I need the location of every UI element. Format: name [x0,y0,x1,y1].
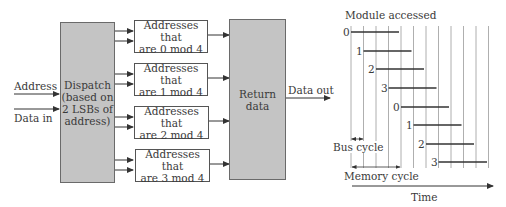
return-data-block: Return data [229,19,286,180]
data-in-label: Data in [14,112,53,124]
input-arrows [14,94,59,109]
dispatch-to-module-arrows [114,31,133,170]
memory-module-3: Addresses that are 3 mod 4 [135,149,210,182]
access-label-1: 1 [356,45,363,57]
return-line-1: Return [239,88,276,100]
access-label-6: 2 [418,138,425,150]
return-line-2: data [246,100,269,112]
memory-cycle-label: Memory cycle [344,170,419,182]
memory-module-0: Addresses that are 0 mod 4 [134,20,208,53]
dispatch-line-1: Dispatch [64,79,111,91]
module-label-line2: are 0 mod 4 [139,43,203,55]
module-label-line1: Addresses that [135,19,207,43]
module-label-line1: Addresses that [135,105,208,129]
memory-module-1: Addresses that are 1 mod 4 [134,63,208,96]
module-label-line1: Addresses that [135,62,207,86]
module-label-line2: are 3 mod 4 [141,172,205,184]
bus-cycle-label: Bus cycle [333,141,383,153]
module-accessed-title: Module accessed [345,9,436,21]
access-label-5: 1 [406,119,413,131]
module-label-line2: are 2 mod 4 [140,129,204,141]
module-label-line2: are 1 mod 4 [139,86,203,98]
access-label-0: 0 [343,26,350,38]
address-input-label: Address [14,80,57,92]
access-label-2: 2 [368,63,375,75]
dispatch-block: Dispatch (based on 2 LSBs of address) [60,22,115,183]
dispatch-line-2: (based on [62,91,114,103]
module-to-return-arrows [208,35,229,164]
access-label-3: 3 [381,82,388,94]
dispatch-line-3: 2 LSBs of [62,103,113,115]
time-label: Time [411,191,438,203]
memory-module-2: Addresses that are 2 mod 4 [134,106,209,139]
access-label-4: 0 [393,101,400,113]
dispatch-line-4: address) [65,115,111,127]
access-label-7: 3 [431,156,438,168]
module-label-line1: Addresses that [136,148,209,172]
data-out-label: Data out [288,84,334,96]
